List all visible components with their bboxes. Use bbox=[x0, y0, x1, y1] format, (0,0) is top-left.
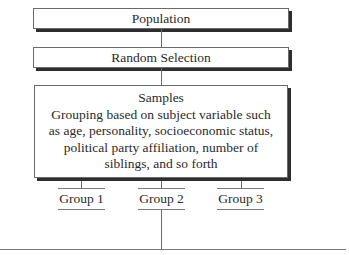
population-box: Population bbox=[33, 8, 289, 29]
group-2-label: Group 2 bbox=[139, 191, 184, 206]
group-3: Group 3 bbox=[217, 188, 264, 210]
random-selection-label: Random Selection bbox=[111, 50, 210, 65]
samples-description-line-4: siblings, and so forth bbox=[35, 156, 287, 173]
random-selection-box: Random Selection bbox=[33, 47, 289, 68]
samples-description-line-3: political party affiliation, number of bbox=[35, 140, 287, 157]
connector-group-2-to-baseline bbox=[161, 210, 162, 250]
samples-description-line-1: Grouping based on subject variable such bbox=[35, 107, 287, 124]
connector-selection-to-samples bbox=[161, 68, 162, 86]
samples-title: Samples bbox=[35, 90, 287, 107]
population-label: Population bbox=[132, 11, 191, 26]
group-2: Group 2 bbox=[138, 188, 185, 210]
samples-box: Samples Grouping based on subject variab… bbox=[34, 85, 288, 178]
group-1-label: Group 1 bbox=[59, 191, 104, 206]
group-1: Group 1 bbox=[58, 188, 105, 210]
baseline-rule bbox=[0, 249, 346, 250]
group-3-label: Group 3 bbox=[218, 191, 263, 206]
connector-population-to-selection bbox=[161, 29, 162, 47]
samples-description-line-2: as age, personality, socioeconomic statu… bbox=[35, 123, 287, 140]
